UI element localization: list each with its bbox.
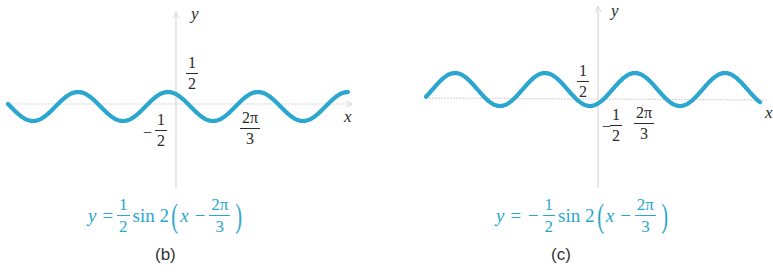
tick-half: 1 2 — [577, 63, 589, 100]
tick-2pi-over-3: 2π 3 — [240, 110, 260, 147]
tick-2pi-over-3: 2π 3 — [634, 105, 654, 142]
x-axis-label: x — [765, 104, 773, 121]
panel-b: y x 1 2 − 1 2 2π 3 y = 1 2 sin 2 ( x − 2… — [0, 0, 384, 274]
caption-c: (c) — [551, 245, 571, 265]
curve-b — [8, 92, 348, 121]
tick-neg-half: 1 2 — [610, 107, 622, 144]
tick-neg-sign: − — [143, 124, 152, 142]
panel-c: y x 1 2 − 1 2 2π 3 y = − 1 2 sin 2 ( x −… — [384, 0, 768, 274]
y-axis-label: y — [191, 5, 199, 22]
x-axis-label: x — [344, 108, 352, 125]
curve-c — [426, 73, 760, 106]
tick-half: 1 2 — [186, 55, 198, 92]
tick-neg-half: 1 2 — [155, 112, 167, 149]
y-axis-label: y — [611, 2, 619, 19]
caption-b: (b) — [155, 245, 176, 265]
equation-c: y = − 1 2 sin 2 ( x − 2π 3 ) — [496, 196, 670, 235]
equation-b: y = 1 2 sin 2 ( x − 2π 3 ) — [88, 196, 245, 235]
